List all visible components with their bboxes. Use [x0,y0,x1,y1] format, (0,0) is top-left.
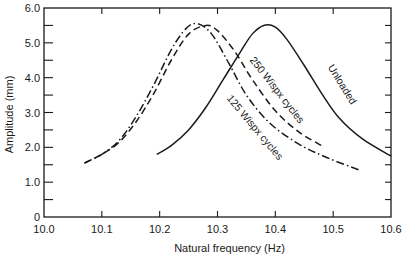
plot-border [44,8,391,217]
y-tick-label: 4.0 [25,72,40,84]
x-tick-label: 10.0 [33,223,54,235]
chart: 10.010.110.210.310.410.510.601.02.03.04.… [0,0,404,265]
axis-ticks [44,8,391,217]
x-tick-label: 10.4 [265,223,286,235]
annotation-250-wispx-cycles: 250 Wispx cycles [248,54,307,125]
curve-125-wispx-cycles [84,23,359,170]
y-axis-label: Amplitude (mm) [3,76,15,154]
y-tick-label: 5.0 [25,37,40,49]
annotation-125-wispx-cycles: 125 Wispx cycles [225,92,286,162]
x-tick-label: 10.1 [91,223,112,235]
x-tick-label: 10.3 [207,223,228,235]
x-tick-label: 10.2 [149,223,170,235]
y-tick-label: 3.0 [25,107,40,119]
plot-frame [44,8,391,217]
x-tick-label: 10.5 [322,223,343,235]
y-tick-label: 1.0 [25,176,40,188]
curve-annotations: 250 Wispx cycles125 Wispx cyclesUnloaded [225,54,360,162]
y-tick-label: 6.0 [25,2,40,14]
x-tick-label: 10.6 [380,223,401,235]
y-tick-label: 2.0 [25,141,40,153]
x-axis-label: Natural frequency (Hz) [174,242,285,254]
annotation-unloaded: Unloaded [326,62,360,107]
y-tick-label: 0 [34,211,40,223]
